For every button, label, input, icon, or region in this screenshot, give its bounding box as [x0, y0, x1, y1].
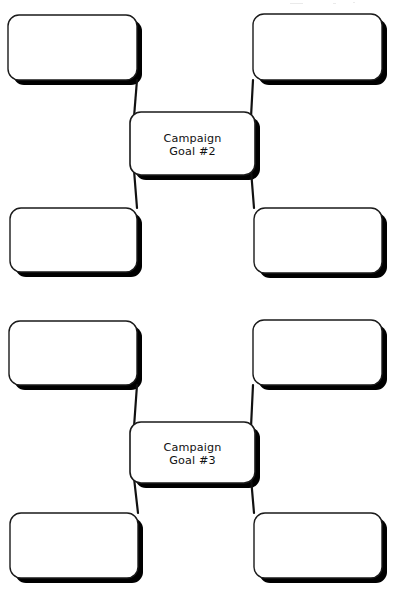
- center-box-label-line-2: Goal #2: [169, 145, 216, 158]
- branch-box-top-left[interactable]: [9, 321, 137, 385]
- branch-box-bottom-left[interactable]: [10, 513, 138, 578]
- mind-map-graphics: CampaignGoal #2CampaignGoal #3: [0, 0, 394, 594]
- branch-box-top-right[interactable]: [253, 14, 382, 80]
- connector-line-top-left: [134, 80, 137, 117]
- mind-map-campaign-goal-2: CampaignGoal #2: [8, 14, 387, 278]
- connector-line-top-left: [134, 385, 137, 427]
- worksheet-canvas: CampaignGoal #2CampaignGoal #3: [0, 0, 394, 594]
- branch-box-bottom-right[interactable]: [254, 208, 382, 273]
- center-box-label-line-1: Campaign: [163, 132, 221, 145]
- branch-box-top-left[interactable]: [8, 15, 137, 80]
- connector-line-top-right: [251, 385, 253, 427]
- connector-line-top-right: [251, 80, 253, 117]
- center-box-label-line-2: Goal #3: [169, 454, 216, 467]
- branch-box-top-right[interactable]: [253, 320, 382, 385]
- mind-map-campaign-goal-3: CampaignGoal #3: [9, 320, 387, 583]
- branch-box-bottom-right[interactable]: [254, 513, 382, 578]
- connector-line-bottom-left: [134, 170, 137, 208]
- center-box-label-line-1: Campaign: [163, 441, 221, 454]
- branch-box-bottom-left[interactable]: [10, 208, 137, 272]
